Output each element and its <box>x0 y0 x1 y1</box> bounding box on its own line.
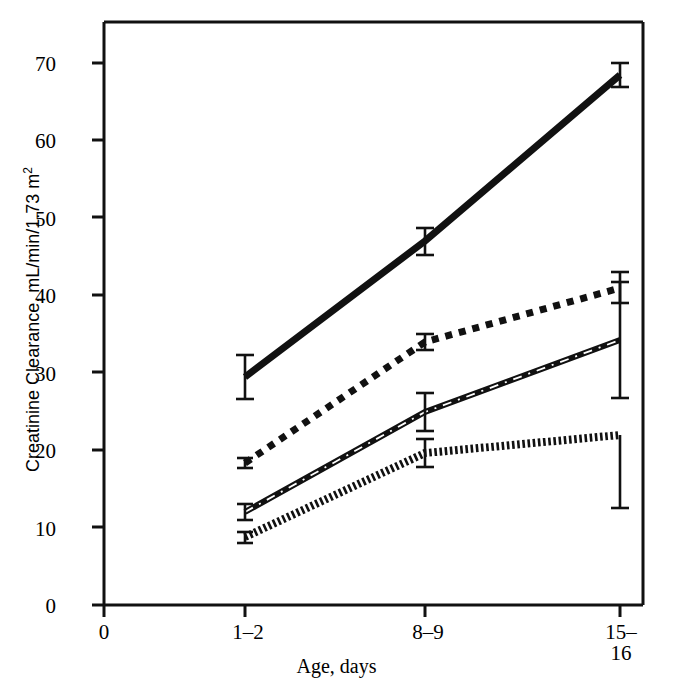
plot-area <box>0 0 673 695</box>
series-fine-dotted <box>237 435 629 543</box>
figure: Creatinine Clearance, mL/min/1.73 m2 Age… <box>0 0 673 695</box>
series-thick-solid <box>236 63 629 399</box>
series-dash-dot <box>237 282 629 520</box>
x-axis-ticks <box>104 605 620 617</box>
y-axis-ticks <box>92 63 104 605</box>
axis-frame <box>104 22 643 605</box>
